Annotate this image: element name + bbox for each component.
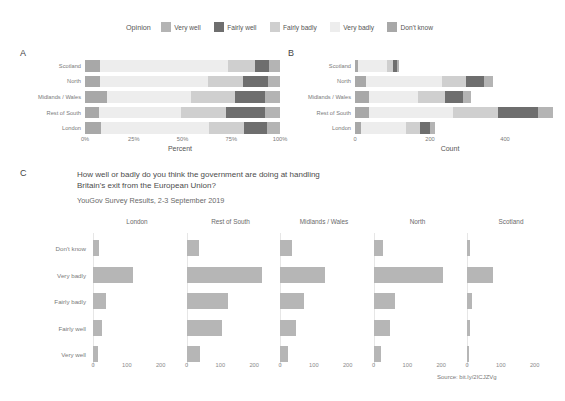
- panel-c-ytick-3: Fairly well: [22, 324, 86, 331]
- panel-c-facet-3-xtick-0: 0: [372, 362, 375, 368]
- panel-c-bar[interactable]: [187, 240, 200, 256]
- panel-c-facet-title-2: Midlands / Wales: [270, 218, 378, 226]
- panel-c-ytick-4: Very well: [22, 351, 86, 358]
- panel-c-bar[interactable]: [93, 267, 133, 283]
- panel-c-facet-1-xtick-1: 100: [216, 362, 226, 368]
- panel-c-facet-1-xtick-0: 0: [185, 362, 188, 368]
- panel-c-bar[interactable]: [280, 267, 325, 283]
- panel-c-facet-title-1: Rest of South: [177, 218, 285, 226]
- panel-c-bar[interactable]: [280, 320, 296, 336]
- panel-c-facet-0-xtick-0: 0: [91, 362, 94, 368]
- panel-c-bar[interactable]: [93, 240, 99, 256]
- panel-c-bar[interactable]: [280, 346, 288, 362]
- panel-c-facet-title-0: London: [83, 218, 191, 226]
- panel-c-bar[interactable]: [374, 346, 382, 362]
- panel-c-facet-2-xtick-2: 200: [343, 362, 353, 368]
- panel-c-facet-3-xtick-1: 100: [403, 362, 413, 368]
- panel-c-facet-0-xtick-1: 100: [122, 362, 132, 368]
- panel-c-facet-0-xtick-2: 200: [156, 362, 166, 368]
- panel-c-ytick-2: Fairly badly: [22, 298, 86, 305]
- source-caption: Source: bit.ly/2ICJZVg: [437, 374, 497, 380]
- panel-c-facet-3-xtick-2: 200: [436, 362, 446, 368]
- panel-c-bar[interactable]: [93, 346, 98, 362]
- panel-c-facet-title-3: North: [364, 218, 472, 226]
- panel-c-plot: Don't knowVery badlyFairly badlyFairly w…: [0, 0, 565, 401]
- panel-c-ytick-0: Don't know: [22, 245, 86, 252]
- panel-c-bar[interactable]: [374, 293, 396, 309]
- panel-c-bar[interactable]: [187, 320, 223, 336]
- panel-c-bar[interactable]: [93, 320, 102, 336]
- panel-c-bar[interactable]: [374, 240, 384, 256]
- panel-c-bar[interactable]: [467, 293, 472, 309]
- panel-c-bar[interactable]: [467, 320, 470, 336]
- panel-c-bar[interactable]: [187, 346, 201, 362]
- panel-c-bar[interactable]: [280, 293, 304, 309]
- panel-c-bar[interactable]: [280, 240, 292, 256]
- panel-c-bar[interactable]: [187, 267, 262, 283]
- panel-c-facet-4-xtick-2: 200: [530, 362, 540, 368]
- panel-c-bar[interactable]: [374, 267, 443, 283]
- panel-c-bar[interactable]: [187, 293, 228, 309]
- panel-c-bar[interactable]: [467, 267, 493, 283]
- panel-c-facet-2-xtick-0: 0: [278, 362, 281, 368]
- panel-c-bar[interactable]: [467, 346, 469, 362]
- panel-c-facet-1-xtick-2: 200: [249, 362, 259, 368]
- panel-c-facet-title-4: Scotland: [457, 218, 565, 226]
- panel-c-bar[interactable]: [467, 240, 470, 256]
- panel-c-facet-4-xtick-0: 0: [465, 362, 468, 368]
- figure-canvas: Opinion Very well Fairly well Fairly bad…: [0, 0, 565, 401]
- panel-c-bar[interactable]: [374, 320, 390, 336]
- panel-c-facet-2-xtick-1: 100: [309, 362, 319, 368]
- panel-c-ytick-1: Very badly: [22, 271, 86, 278]
- panel-c-bar[interactable]: [93, 293, 106, 309]
- panel-c-facet-4-xtick-1: 100: [496, 362, 506, 368]
